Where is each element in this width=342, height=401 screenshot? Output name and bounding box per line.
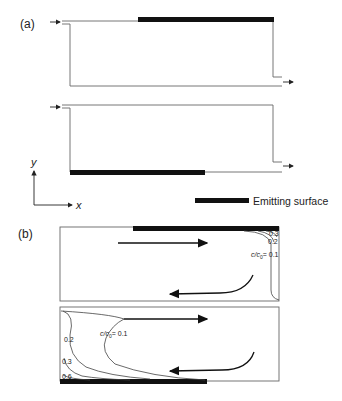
emitting-surface-bar	[138, 17, 274, 22]
y-axis-label: y	[30, 156, 38, 168]
panel-b-top-cavity: 0.3 0.2 c/c0= 0.1	[60, 226, 279, 301]
panel-a-label: (a)	[20, 17, 35, 31]
panel-b-bottom-cavity: c/c0= 0.1 0.2 0.3 0.6	[60, 307, 279, 384]
coordinate-axes	[34, 171, 72, 205]
channel-bottom-wall	[62, 24, 282, 86]
contour-label: 0.3	[62, 358, 72, 365]
x-axis-label: x	[75, 199, 82, 211]
channel-top-wall	[62, 105, 282, 162]
flow-arrow-return-icon	[170, 275, 253, 294]
contour-label: 0.3	[269, 230, 279, 237]
panel-b-label: (b)	[18, 227, 33, 241]
contour-label: c/c0= 0.1	[251, 251, 279, 260]
panel-a-top-channel	[50, 21, 293, 86]
contour-0.1	[61, 311, 205, 380]
flow-arrow-return-icon	[170, 352, 254, 371]
contour-label: 0.2	[268, 238, 278, 245]
emitting-surface-bar	[70, 170, 205, 175]
contour-label: 0.2	[64, 336, 74, 343]
channel-bottom-wall	[62, 108, 282, 172]
contour-0.2	[63, 311, 150, 379]
panel-a-bottom-channel	[50, 105, 293, 172]
contour-label: c/c0= 0.1	[100, 330, 128, 339]
emitting-surface-bar	[133, 226, 279, 231]
legend-label: Emitting surface	[253, 195, 328, 207]
channel-top-wall	[62, 21, 282, 77]
figure-canvas: (a) y x Emitting surface (b)	[0, 0, 342, 401]
contour-0.3	[64, 358, 130, 380]
legend-swatch	[195, 198, 249, 203]
contour-lines	[61, 311, 205, 380]
contour-label: 0.6	[62, 373, 72, 380]
